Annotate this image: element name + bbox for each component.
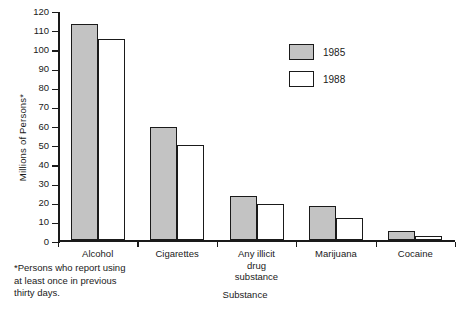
y-axis-tick-label-20: 20 (38, 197, 49, 208)
y-axis-tick-label-0: 0 (44, 236, 49, 247)
x-axis-tick (137, 242, 138, 247)
y-axis-tick-label-100: 100 (33, 44, 49, 55)
y-axis-tick-label-120: 120 (33, 6, 49, 17)
y-axis-tick-30: 30 (52, 185, 58, 186)
bar-1988-alcohol (98, 39, 125, 240)
y-axis-tick-10: 10 (52, 223, 58, 224)
y-axis-tick-110: 110 (52, 31, 58, 32)
bar-1985-marijuana (309, 206, 336, 241)
x-axis-tick (58, 242, 59, 247)
chart-footnote: *Persons who report using at least once … (14, 262, 204, 300)
legend-label-1985: 1985 (323, 47, 345, 58)
bar-1985-cocaine (388, 231, 415, 241)
bar-1988-marijuana (336, 218, 363, 240)
y-axis-tick-label-60: 60 (38, 121, 49, 132)
legend-swatch-1988 (289, 71, 314, 87)
y-axis-tick-label-40: 40 (38, 159, 49, 170)
bar-1988-cocaine (415, 236, 442, 241)
legend-item-1988: 1988 (289, 71, 345, 87)
x-axis-tick (455, 242, 456, 247)
y-axis-tick-120: 120 (52, 12, 58, 13)
y-axis-tick-label-50: 50 (38, 140, 49, 151)
y-axis-tick-70: 70 (52, 108, 58, 109)
y-axis-title: Millions of Persons* (17, 58, 28, 218)
bar-1988-any-illicit-drug-substance (257, 204, 284, 240)
y-axis-tick-40: 40 (52, 165, 58, 166)
y-axis-tick-80: 80 (52, 89, 58, 90)
bar-chart-figure: Millions of Persons* 1201101009080706050… (0, 0, 464, 318)
x-axis-tick (217, 242, 218, 247)
x-axis-tick (296, 242, 297, 247)
y-axis-line (58, 12, 60, 243)
y-axis-tick-20: 20 (52, 204, 58, 205)
bar-1988-cigarettes (177, 145, 204, 241)
y-axis-tick-label-70: 70 (38, 101, 49, 112)
y-axis-tick-100: 100 (52, 50, 58, 51)
bar-1985-cigarettes (150, 127, 177, 240)
x-axis-tick (376, 242, 377, 247)
y-axis-tick-50: 50 (52, 146, 58, 147)
bar-1985-alcohol (71, 24, 98, 241)
y-axis-tick-90: 90 (52, 70, 58, 71)
x-axis-label-cocaine: Cocaine (368, 248, 463, 260)
legend-item-1985: 1985 (289, 44, 345, 60)
bar-1985-any-illicit-drug-substance (230, 196, 257, 240)
y-axis-tick-label-90: 90 (38, 63, 49, 74)
plot-area: 1201101009080706050403020100 (58, 12, 455, 242)
y-axis-tick-label-80: 80 (38, 82, 49, 93)
y-axis-tick-label-110: 110 (34, 25, 49, 36)
legend-swatch-1985 (289, 44, 314, 60)
y-axis-tick-label-30: 30 (38, 178, 49, 189)
chart-legend: 1985 1988 (289, 44, 345, 98)
legend-label-1988: 1988 (323, 74, 345, 85)
y-axis-tick-60: 60 (52, 127, 58, 128)
y-axis-tick-label-10: 10 (38, 216, 49, 227)
x-axis-line (58, 240, 455, 242)
